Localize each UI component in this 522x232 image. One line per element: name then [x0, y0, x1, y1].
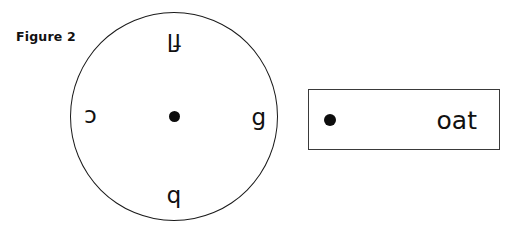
circle-letter-left: c — [84, 105, 97, 128]
circle-letter-bottom: b — [167, 186, 182, 209]
circle-letter-right: g — [251, 105, 266, 128]
rectangle-box: oat — [308, 89, 500, 150]
rectangle-dot-marker — [324, 114, 336, 126]
circle-letter-top: fl — [167, 30, 182, 53]
figure-canvas: Figure 2 fl g b c oat — [0, 0, 522, 232]
circle-center-dot-marker — [169, 111, 180, 122]
circle-diagram: fl g b c — [70, 12, 278, 221]
figure-caption: Figure 2 — [16, 29, 76, 44]
rectangle-word: oat — [437, 107, 477, 132]
